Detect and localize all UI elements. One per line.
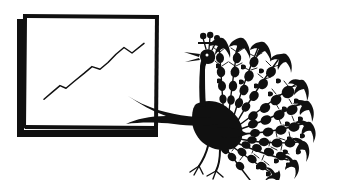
peacock-legs xyxy=(190,146,223,179)
chart-panel xyxy=(17,14,159,137)
peacock-eye xyxy=(206,54,209,57)
chart-plot-area xyxy=(24,16,156,130)
peacock-body xyxy=(192,101,248,150)
peacock-leg-front xyxy=(207,150,223,179)
peacock-neck-head xyxy=(184,32,222,107)
peacock-beak-lower xyxy=(185,58,200,62)
illustration-canvas xyxy=(0,0,340,180)
peacock-chart-illustration xyxy=(0,0,340,180)
tail-eyespots xyxy=(227,52,246,105)
peacock-beak-upper xyxy=(184,52,200,57)
peacock-leg-back xyxy=(190,146,208,175)
